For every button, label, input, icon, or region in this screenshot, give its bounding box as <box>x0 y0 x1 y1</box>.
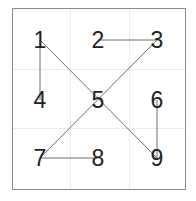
node-label-8: 8 <box>92 145 105 171</box>
node-label-2: 2 <box>92 27 105 53</box>
node-label-1: 1 <box>34 27 47 53</box>
node-label-7: 7 <box>34 145 47 171</box>
node-label-5: 5 <box>92 87 105 113</box>
number-grid-diagram: 123456789 <box>0 0 196 201</box>
node-label-4: 4 <box>34 87 47 113</box>
node-label-6: 6 <box>151 87 164 113</box>
node-label-3: 3 <box>151 27 164 53</box>
node-label-9: 9 <box>151 145 164 171</box>
